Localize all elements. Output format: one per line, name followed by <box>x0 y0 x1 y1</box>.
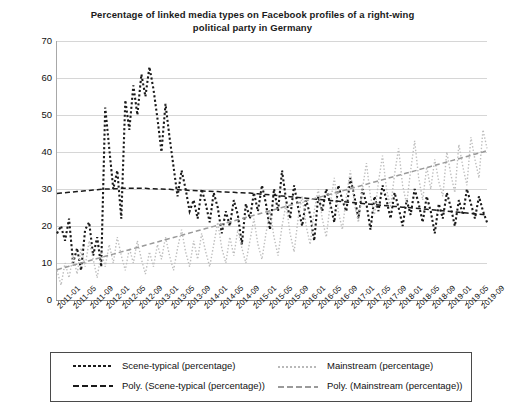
series-line <box>57 130 487 285</box>
legend: Scene-typical (percentage)Mainstream (pe… <box>50 352 472 402</box>
legend-swatch-icon <box>278 381 318 391</box>
legend-swatch-icon <box>73 361 113 371</box>
y-axis-tick-label: 60 <box>26 73 52 83</box>
legend-swatch-icon <box>73 381 113 391</box>
legend-item-label: Poly. (Scene-typical (percentage)) <box>122 381 265 391</box>
y-axis-tick-label: 40 <box>26 147 52 157</box>
legend-item[interactable]: Mainstream (percentage) <box>278 357 433 375</box>
chart-title: Percentage of linked media types on Face… <box>60 8 445 34</box>
legend-item-label: Mainstream (percentage) <box>327 361 433 371</box>
chart-title-line-1: Percentage of linked media types on Face… <box>60 8 445 21</box>
legend-item[interactable]: Poly. (Mainstream (percentage)) <box>278 377 463 395</box>
y-axis-tick-label: 0 <box>26 295 52 305</box>
y-axis-tick-label: 30 <box>26 184 52 194</box>
y-axis-tick-label: 20 <box>26 221 52 231</box>
legend-item-label: Scene-typical (percentage) <box>122 361 236 371</box>
x-axis-tick-labels: 2011-012011-052011-092012-012012-052012-… <box>57 305 487 351</box>
legend-item[interactable]: Poly. (Scene-typical (percentage)) <box>73 377 265 395</box>
legend-swatch-icon <box>278 361 318 371</box>
legend-item-label: Poly. (Mainstream (percentage)) <box>327 381 463 391</box>
series-layer <box>57 41 487 300</box>
legend-item[interactable]: Scene-typical (percentage) <box>73 357 236 375</box>
chart-title-line-2: political party in Germany <box>60 21 445 34</box>
y-axis-tick-labels: 010203040506070 <box>18 41 52 301</box>
y-axis-tick-label: 50 <box>26 110 52 120</box>
y-axis-tick-label: 70 <box>26 36 52 46</box>
y-axis-tick-label: 10 <box>26 258 52 268</box>
